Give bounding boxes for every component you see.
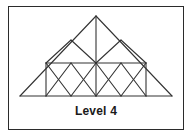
upper-left-cross [46,40,71,63]
upper-right-cross [121,40,146,63]
figure-container: Level 4 [0,0,192,137]
right-outer-edge [96,16,172,96]
upper-left-diagonal [71,40,96,63]
upper-right-diagonal [96,40,121,63]
figure-caption: Level 4 [0,104,192,118]
left-outer-edge [20,16,96,96]
